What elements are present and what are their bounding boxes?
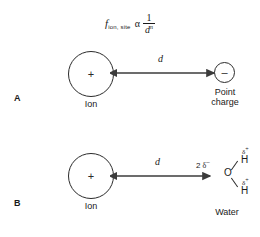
bond-oxygen-hydrogen-top <box>231 161 238 171</box>
ion-charge-sign: + <box>68 153 114 199</box>
oxygen-charge-count: 2 <box>196 161 200 170</box>
ion-interaction-figure: fion, siteα1dn A + Ion d – Point charge … <box>0 0 260 237</box>
panel-b-ion: + <box>68 153 114 199</box>
inverse-power-fraction: 1dn <box>143 12 155 35</box>
proportionality-formula: fion, siteα1dn <box>0 13 260 36</box>
water-label: Water <box>200 207 254 217</box>
point-charge-label-line2: charge <box>201 97 249 107</box>
point-charge: – <box>214 62 235 83</box>
formula-f-subscript: ion, site <box>108 24 130 30</box>
hydrogen-atom-top: H <box>241 155 248 165</box>
denominator-exponent: n <box>150 24 153 30</box>
panel-a-distance-arrow <box>110 66 220 80</box>
panel-a-ion: + <box>68 51 114 97</box>
oxygen-partial-charge-label: 2δ– <box>196 159 210 170</box>
hydrogen-top-charge-sign: + <box>245 146 248 152</box>
bond-oxygen-hydrogen-bottom <box>231 178 238 188</box>
proportional-symbol: α <box>135 18 140 29</box>
panel-b-ion-label: Ion <box>61 201 121 211</box>
point-charge-label-line1: Point <box>201 87 249 97</box>
water-molecule: 2δ– O δ+ H δ+ H <box>196 144 258 204</box>
panel-b-distance-label: d <box>155 156 160 167</box>
fraction-denominator: dn <box>143 23 155 35</box>
hydrogen-atom-bottom: H <box>241 186 248 196</box>
panel-a-ion-label: Ion <box>61 99 121 109</box>
ion-charge-sign: + <box>68 51 114 97</box>
panel-a-distance-label: d <box>158 53 163 64</box>
fraction-numerator: 1 <box>143 12 155 23</box>
panel-letter-b: B <box>14 198 21 208</box>
oxygen-charge-sign: – <box>206 159 209 165</box>
point-charge-sign: – <box>214 62 235 83</box>
hydrogen-bottom-charge-sign: + <box>245 177 248 183</box>
panel-letter-a: A <box>14 93 21 103</box>
